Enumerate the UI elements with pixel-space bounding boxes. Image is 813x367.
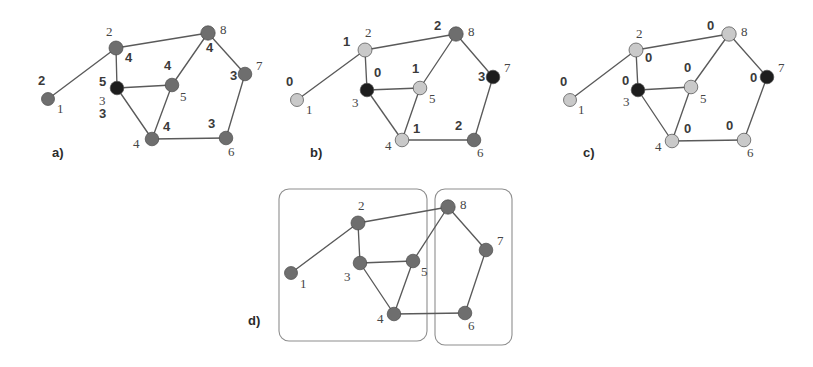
node-index-3: 3 — [344, 269, 351, 284]
node-weight-3: 0 — [374, 65, 381, 80]
node-5[interactable] — [684, 80, 698, 94]
node-2[interactable] — [629, 43, 643, 57]
edge-4-6 — [152, 138, 226, 139]
node-5[interactable] — [406, 254, 420, 268]
node-8[interactable] — [201, 26, 215, 40]
panel-caption-b: b) — [310, 145, 322, 160]
node-index-5: 5 — [180, 89, 187, 104]
node-index-7: 7 — [778, 60, 785, 75]
node-weight-3: 0 — [622, 73, 629, 88]
node-weight-7: 3 — [230, 68, 237, 83]
node-3[interactable] — [110, 81, 124, 95]
node-index-8: 8 — [468, 24, 475, 39]
node-index-7: 7 — [504, 60, 511, 75]
node-4[interactable] — [387, 307, 401, 321]
node-4[interactable] — [665, 134, 679, 148]
node-index-1: 1 — [57, 101, 64, 116]
node-index-2: 2 — [358, 198, 365, 213]
node-weight-2: 4 — [125, 50, 133, 65]
panel-caption-c: c) — [583, 145, 595, 160]
node-weight-4: 0 — [684, 121, 691, 136]
edge-5-8 — [420, 34, 456, 88]
node-weight-5: 1 — [412, 61, 419, 76]
node-1[interactable] — [564, 94, 577, 107]
edge-3-5 — [367, 88, 420, 90]
node-3[interactable] — [353, 256, 367, 270]
node-index-2: 2 — [636, 26, 643, 41]
node-index-8: 8 — [460, 197, 467, 212]
node-index-3: 3 — [623, 94, 630, 109]
edge-6-7 — [226, 74, 245, 138]
node-6[interactable] — [219, 131, 233, 145]
edge-3-5 — [117, 85, 172, 88]
edge-5-8 — [413, 207, 448, 261]
node-index-7: 7 — [497, 233, 504, 248]
node-5[interactable] — [165, 78, 179, 92]
node-8[interactable] — [441, 200, 455, 214]
node-index-6: 6 — [747, 145, 754, 160]
node-1[interactable] — [42, 93, 55, 106]
edge-2-8 — [365, 34, 456, 50]
node-weight-4: 1 — [413, 121, 420, 136]
node-weight-1: 2 — [38, 73, 45, 88]
panel-c: 1020304050607080c) — [560, 18, 785, 160]
panel-caption-a: a) — [52, 145, 64, 160]
node-index-6: 6 — [468, 318, 475, 333]
edge-4-6 — [394, 313, 465, 314]
edge-6-7 — [744, 77, 767, 140]
node-7[interactable] — [238, 67, 252, 81]
node-index-4: 4 — [385, 138, 392, 153]
node-index-3: 3 — [352, 95, 359, 110]
node-7[interactable] — [760, 70, 774, 84]
edge-6-7 — [465, 250, 486, 313]
node-index-1: 1 — [578, 102, 585, 117]
edge-1-2 — [291, 223, 358, 273]
node-3[interactable] — [360, 83, 374, 97]
node-2[interactable] — [109, 41, 123, 55]
node-4[interactable] — [145, 132, 159, 146]
node-index-5: 5 — [700, 91, 707, 106]
node-weight-1: 0 — [560, 74, 567, 89]
edge-7-8 — [208, 33, 245, 74]
node-weight-5: 0 — [684, 60, 691, 75]
node-5[interactable] — [413, 81, 427, 95]
node-8[interactable] — [722, 27, 736, 41]
graph-figure: 12243544546373843a)1021304151627382b)102… — [0, 0, 813, 367]
edge-4-6 — [672, 140, 744, 141]
edge-7-8 — [456, 34, 493, 77]
node-weight-4: 4 — [163, 119, 171, 134]
node-1[interactable] — [285, 267, 298, 280]
node-weight-extra: 3 — [99, 106, 106, 121]
edge-3-4 — [360, 263, 394, 314]
node-weight-6: 2 — [455, 118, 462, 133]
node-weight-8: 2 — [434, 18, 441, 33]
edge-3-4 — [117, 88, 152, 139]
node-index-6: 6 — [228, 144, 235, 159]
node-2[interactable] — [358, 43, 372, 57]
node-weight-8: 4 — [206, 40, 214, 55]
panel-a: 12243544546373843a) — [38, 22, 263, 160]
node-index-4: 4 — [377, 311, 384, 326]
node-4[interactable] — [395, 133, 409, 147]
edge-1-2 — [297, 50, 365, 100]
node-2[interactable] — [351, 216, 365, 230]
panel-b: 1021304151627382b) — [286, 18, 511, 160]
edge-3-5 — [638, 87, 691, 90]
edge-2-8 — [636, 34, 729, 50]
node-8[interactable] — [449, 27, 463, 41]
node-1[interactable] — [291, 94, 304, 107]
node-7[interactable] — [479, 243, 493, 257]
node-3[interactable] — [631, 83, 645, 97]
edge-5-8 — [172, 33, 208, 85]
edge-5-8 — [691, 34, 729, 87]
node-index-2: 2 — [365, 25, 372, 40]
node-index-5: 5 — [429, 91, 436, 106]
node-index-1: 1 — [300, 276, 307, 291]
node-7[interactable] — [486, 70, 500, 84]
node-weight-1: 0 — [286, 74, 293, 89]
node-weight-7: 0 — [750, 70, 757, 85]
node-weight-8: 0 — [707, 18, 714, 33]
node-weight-2: 1 — [343, 34, 350, 49]
edge-4-5 — [394, 261, 413, 314]
panel-d: 12345678d) — [248, 189, 512, 345]
